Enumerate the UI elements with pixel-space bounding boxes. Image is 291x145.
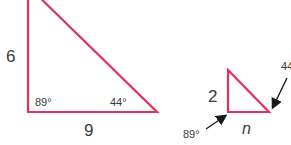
small-triangle: 2 n 89° 44° bbox=[183, 60, 291, 140]
large-side-horizontal-label: 9 bbox=[84, 121, 93, 140]
small-side-vertical-label: 2 bbox=[208, 87, 217, 106]
large-triangle: 6 9 89° 44° bbox=[6, 0, 157, 140]
small-triangle-outline bbox=[228, 70, 269, 112]
small-angle-left-label: 89° bbox=[183, 128, 200, 140]
small-angle-right-label: 44° bbox=[281, 60, 291, 72]
large-angle-right-label: 44° bbox=[110, 96, 127, 108]
similar-triangles-diagram: 6 9 89° 44° 2 n 89° 44° bbox=[0, 0, 291, 145]
arrow-left-angle-icon bbox=[206, 116, 225, 129]
arrow-right-angle-icon bbox=[273, 78, 287, 107]
large-side-vertical-label: 6 bbox=[6, 47, 15, 66]
large-angle-left-label: 89° bbox=[35, 96, 52, 108]
small-side-horizontal-label: n bbox=[242, 120, 251, 137]
